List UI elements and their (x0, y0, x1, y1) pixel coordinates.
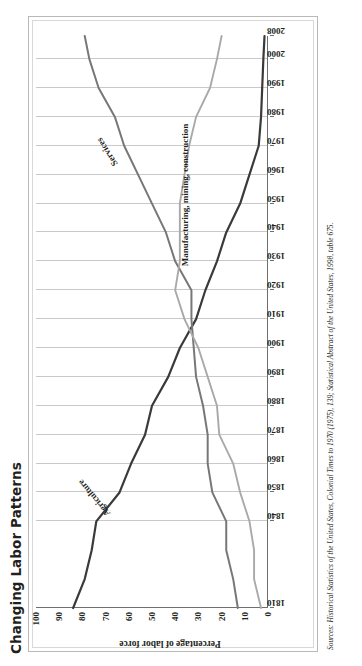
x-axis-tick-label: 1950 (267, 194, 285, 204)
y-axis-ticks: 0102030405060708090100 (36, 610, 268, 632)
y-axis-title: Percentage of labor force (119, 639, 221, 649)
x-axis-tick-label: 1860 (267, 454, 285, 464)
x-axis-tick-label: 1970 (267, 136, 285, 146)
x-axis-tick-label: 1920 (267, 280, 285, 290)
y-axis-tick-label: 60 (124, 612, 134, 621)
series-line (175, 36, 261, 608)
x-axis-tick-label: 2008 (267, 26, 285, 36)
x-axis-tick-label: 1880 (267, 396, 285, 406)
figure-panel: Changing Labor Patterns Percentage of la… (0, 0, 362, 666)
series-label-manufacturing: Manufacturing, mining, construction (180, 124, 190, 267)
page-title: Changing Labor Patterns (8, 462, 24, 654)
x-axis-tick-label: 1990 (267, 78, 285, 88)
y-axis-tick-label: 50 (147, 612, 157, 621)
y-axis-tick-label: 20 (217, 612, 227, 621)
series-line (85, 36, 238, 608)
series-line (73, 36, 264, 608)
rotated-page: Changing Labor Patterns Percentage of la… (0, 0, 362, 666)
y-axis-tick-label: 90 (54, 612, 64, 621)
x-axis-tick-label: 1960 (267, 165, 285, 175)
x-axis-tick-label: 1980 (267, 107, 285, 117)
x-axis-ticks: 1810184018501860187018801890190019101920… (270, 36, 304, 608)
y-axis-tick-label: 30 (193, 612, 203, 621)
source-note: Sources: Historical Statistics of the Un… (326, 223, 335, 650)
x-axis-tick-label: 1910 (267, 309, 285, 319)
y-axis-tick-label: 10 (240, 612, 250, 621)
x-axis-tick-label: 2000 (267, 49, 285, 59)
chart-plot-area: Percentage of labor force 01020304050607… (36, 28, 304, 640)
x-axis-tick-label: 1890 (267, 367, 285, 377)
y-axis-tick-label: 40 (170, 612, 180, 621)
y-axis-tick-label: 80 (77, 612, 87, 621)
y-axis-tick-label: 100 (31, 612, 41, 626)
x-axis-tick-label: 1810 (267, 598, 285, 608)
x-axis-tick-label: 1840 (267, 511, 285, 521)
y-axis-tick-label: 70 (101, 612, 111, 621)
x-axis-tick-label: 1870 (267, 425, 285, 435)
x-axis-tick-label: 1850 (267, 482, 285, 492)
x-axis-tick-label: 1900 (267, 338, 285, 348)
x-axis-tick-label: 1930 (267, 251, 285, 261)
series-lines (36, 36, 268, 608)
chart-axes (36, 36, 268, 608)
y-axis-tick-label: 0 (263, 612, 273, 617)
x-axis-tick-label: 1940 (267, 222, 285, 232)
